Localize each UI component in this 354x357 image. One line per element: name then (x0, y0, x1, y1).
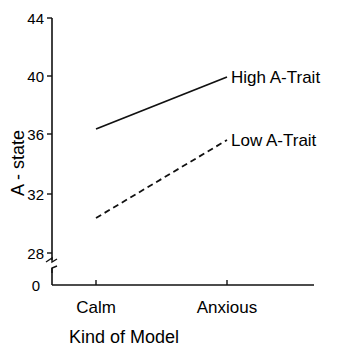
x-tick-label-calm: Calm (76, 298, 116, 317)
x-tick-label-anxious: Anxious (197, 298, 257, 317)
y-tick-label-36: 36 (27, 126, 44, 143)
x-axis-title: Kind of Model (69, 327, 179, 347)
series-high-a-trait-line (96, 77, 227, 129)
series-low-a-trait-line (96, 140, 227, 218)
y-tick-label-0: 0 (32, 277, 40, 294)
axis-break-mark (46, 258, 57, 262)
series-label-high-a-trait: High A-Trait (231, 68, 320, 87)
line-chart: 44 40 36 32 28 0 Calm Anxious Kind of Mo… (0, 0, 354, 357)
y-tick-label-32: 32 (27, 186, 44, 203)
series-label-low-a-trait: Low A-Trait (231, 131, 317, 150)
y-axis-title: A - state (8, 130, 28, 196)
y-tick-label-40: 40 (27, 68, 44, 85)
y-tick-label-28: 28 (27, 245, 44, 262)
y-tick-label-44: 44 (27, 10, 44, 27)
